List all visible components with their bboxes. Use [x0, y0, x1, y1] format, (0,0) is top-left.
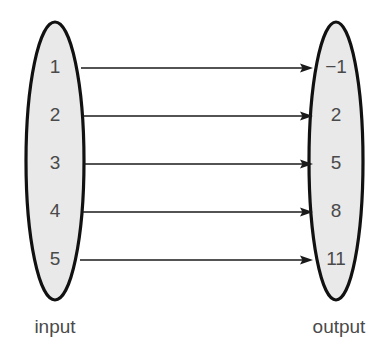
input-element-1: 1	[50, 56, 61, 77]
output-element-3: 5	[331, 152, 342, 173]
input-element-5: 5	[50, 248, 61, 269]
mapping-arrow-1	[81, 63, 313, 72]
mapping-arrow-2	[83, 111, 313, 120]
output-element-2: 2	[331, 104, 342, 125]
output-element-1: −1	[325, 56, 347, 77]
mapping-arrow-4	[83, 207, 313, 216]
mapping-arrow-5	[80, 255, 313, 264]
mapping-diagram: 1 2 3 4 5 −1 2 5 8 11 input output	[0, 0, 383, 362]
mapping-arrow-group	[80, 63, 313, 264]
mapping-diagram-canvas: 1 2 3 4 5 −1 2 5 8 11 input output	[0, 0, 383, 362]
input-element-3: 3	[50, 152, 61, 173]
output-set-caption: output	[313, 316, 367, 337]
input-set-caption: input	[34, 316, 76, 337]
input-element-4: 4	[50, 200, 61, 221]
mapping-arrow-3	[84, 159, 313, 168]
output-element-4: 8	[331, 200, 342, 221]
input-element-2: 2	[50, 104, 61, 125]
output-element-5: 11	[326, 248, 346, 269]
